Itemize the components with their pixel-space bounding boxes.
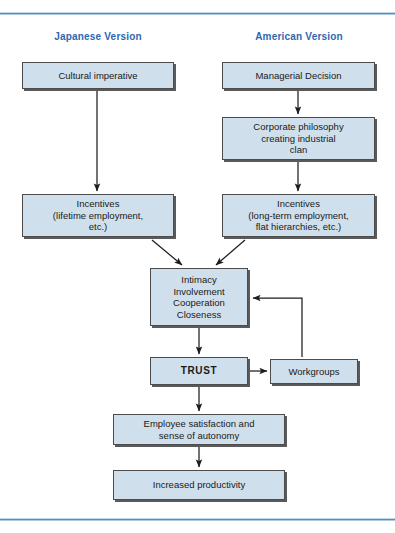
edge-workgroups-to-intimacy bbox=[253, 298, 302, 357]
node-cultural-imperative: Cultural imperative bbox=[22, 62, 174, 89]
node-label: Incentives(long-term employment,flat hie… bbox=[226, 198, 371, 233]
node-incentives-japanese: Incentives(lifetime employment,etc.) bbox=[22, 194, 174, 237]
node-increased-productivity: Increased productivity bbox=[113, 470, 285, 500]
figure-container: Japanese Version American Version Cultur… bbox=[0, 0, 395, 533]
node-label: Incentives(lifetime employment,etc.) bbox=[26, 198, 170, 233]
edge-incentives-jp-to-intimacy bbox=[152, 240, 182, 265]
edge-incentives-us-to-intimacy bbox=[216, 240, 245, 265]
column-title-american: American Version bbox=[246, 31, 352, 42]
node-corporate-philosophy: Corporate philosophycreating industrialc… bbox=[222, 117, 375, 160]
node-label: Employee satisfaction andsense of autono… bbox=[117, 418, 281, 441]
node-label: IntimacyInvolvementCooperationCloseness bbox=[154, 274, 244, 320]
node-label: Managerial Decision bbox=[226, 70, 371, 82]
node-label: TRUST bbox=[154, 365, 244, 377]
node-label: Corporate philosophycreating industrialc… bbox=[226, 121, 371, 156]
node-intimacy-involvement: IntimacyInvolvementCooperationCloseness bbox=[150, 268, 248, 326]
node-employee-satisfaction: Employee satisfaction andsense of autono… bbox=[113, 414, 285, 445]
node-label: Cultural imperative bbox=[26, 70, 170, 82]
node-label: Workgroups bbox=[274, 366, 354, 378]
node-managerial-decision: Managerial Decision bbox=[222, 62, 375, 89]
node-incentives-american: Incentives(long-term employment,flat hie… bbox=[222, 194, 375, 237]
node-trust: TRUST bbox=[150, 357, 248, 385]
node-workgroups: Workgroups bbox=[270, 359, 358, 384]
node-label: Increased productivity bbox=[117, 479, 281, 491]
bottom-rule-divider bbox=[0, 518, 395, 521]
top-rule-divider bbox=[0, 12, 395, 15]
column-title-japanese: Japanese Version bbox=[46, 31, 150, 42]
